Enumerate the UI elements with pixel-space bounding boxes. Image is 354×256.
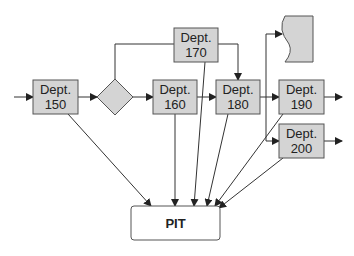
node-dept-180[interactable]: Dept. 180 [216,80,260,114]
node-dept-190-line1: Dept. [286,82,317,97]
node-dept-170-line1: Dept. [180,30,211,45]
node-dept-160[interactable]: Dept. 160 [153,80,197,114]
arrow-170-to-180 [218,44,238,80]
process-flow-diagram: Dept. 150 Dept. 160 Dept. 170 Dept. 180 … [0,0,354,256]
node-pit-label: PIT [165,216,185,231]
node-dept-200[interactable]: Dept. 200 [279,124,324,158]
node-dept-160-line2: 160 [164,97,186,112]
node-dept-170-line2: 170 [185,45,207,60]
node-dept-150[interactable]: Dept. 150 [33,80,78,114]
node-dept-180-line1: Dept. [222,82,253,97]
node-dept-170[interactable]: Dept. 170 [174,28,218,62]
document-shape[interactable] [282,16,313,62]
node-dept-180-line2: 180 [227,97,249,112]
arrow-150-to-pit [68,114,151,206]
node-dept-160-line1: Dept. [159,82,190,97]
node-dept-190-line2: 190 [291,97,313,112]
node-dept-150-line1: Dept. [40,82,71,97]
node-dept-200-line2: 200 [291,141,313,156]
arrow-decision-to-170 [115,44,174,79]
node-dept-150-line2: 150 [45,97,67,112]
arrow-200-to-pit [219,158,283,208]
node-dept-190[interactable]: Dept. 190 [279,80,324,114]
node-pit[interactable]: PIT [131,206,220,240]
decision-diamond[interactable] [97,79,133,115]
node-dept-200-line1: Dept. [286,126,317,141]
